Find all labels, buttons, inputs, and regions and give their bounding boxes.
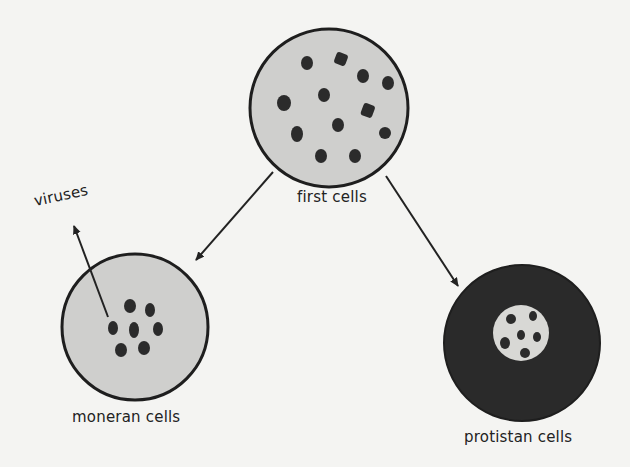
first-cells-label: first cells [297,188,367,206]
moneran-cell [62,254,208,400]
evolution-diagram [0,0,630,467]
moneran-cells-label: moneran cells [72,408,180,426]
arrow-first-to-moneran [196,172,273,260]
protistan-cell [444,265,600,421]
arrow-first-to-protistan [386,176,458,286]
protistan-cells-label: protistan cells [464,428,572,446]
first-cell [250,29,408,187]
